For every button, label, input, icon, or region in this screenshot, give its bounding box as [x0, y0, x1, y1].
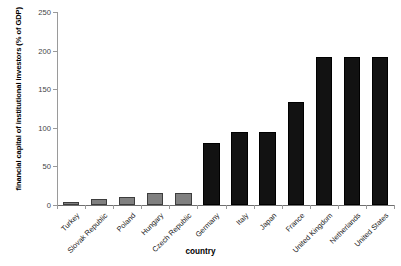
x-tick-mark — [113, 205, 114, 209]
bar — [344, 57, 360, 205]
x-tick-mark — [169, 205, 170, 209]
y-tick-label: 200 — [38, 46, 51, 55]
x-axis-title: country — [0, 247, 401, 256]
y-tick-mark — [53, 128, 57, 129]
x-tick-mark — [254, 205, 255, 209]
bar — [259, 132, 275, 205]
y-tick-mark — [53, 51, 57, 52]
y-axis-line — [57, 12, 58, 206]
bar — [316, 57, 332, 205]
x-tick-mark — [366, 205, 367, 209]
y-tick-label: 0 — [47, 201, 51, 210]
bar — [63, 202, 79, 205]
bar — [288, 102, 304, 205]
bar — [119, 197, 135, 205]
x-tick-mark — [141, 205, 142, 209]
x-tick-mark — [226, 205, 227, 209]
y-tick-mark — [53, 89, 57, 90]
x-category-label: Turkey — [4, 211, 81, 266]
y-tick-label: 250 — [38, 8, 51, 17]
y-axis-title: financial capital of institutional inves… — [14, 0, 24, 199]
y-tick-mark — [53, 12, 57, 13]
bar — [372, 57, 388, 205]
x-tick-mark — [310, 205, 311, 209]
x-tick-mark — [197, 205, 198, 209]
x-tick-mark — [338, 205, 339, 209]
plot-area: 050100150200250 TurkeySlovak RepublicPol… — [57, 12, 394, 205]
bar — [231, 132, 247, 205]
bar — [147, 193, 163, 205]
bar — [91, 199, 107, 205]
y-tick-label: 50 — [43, 162, 51, 171]
x-tick-mark — [394, 205, 395, 209]
y-tick-label: 100 — [38, 123, 51, 132]
bar — [203, 143, 219, 205]
x-tick-mark — [282, 205, 283, 209]
y-tick-mark — [53, 166, 57, 167]
x-tick-mark — [85, 205, 86, 209]
y-tick-label: 150 — [38, 85, 51, 94]
bar — [175, 193, 191, 205]
bar-chart: financial capital of institutional inves… — [0, 0, 401, 266]
x-tick-mark — [57, 205, 58, 209]
